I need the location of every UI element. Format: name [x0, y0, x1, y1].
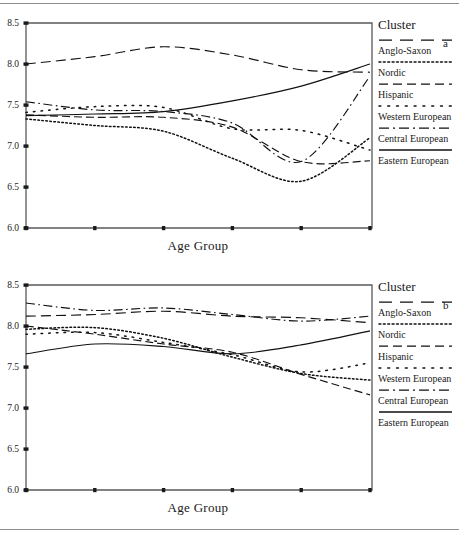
y-axis-tick — [24, 365, 29, 368]
x-axis-tick — [368, 226, 371, 230]
x-axis-tick — [231, 488, 234, 492]
x-axis-tick — [162, 226, 165, 230]
x-axis-tick-label: 35-44 — [153, 496, 175, 497]
x-axis-tick — [93, 226, 96, 230]
y-axis-tick-label: 8.0 — [7, 321, 19, 331]
legend-label: Nordic — [378, 328, 456, 340]
legend-entry-nordic[interactable]: Nordic — [378, 57, 456, 78]
y-axis-tick — [24, 406, 29, 409]
legend-entry-eastern-european[interactable]: Eastern European — [378, 145, 456, 166]
legend-line-sample-sparse-dot — [378, 101, 456, 110]
legend-line-sample-dash-dot — [378, 123, 456, 132]
legend-entry-western-european[interactable]: Western European — [378, 101, 456, 122]
x-axis-tick-label: 55-64 — [290, 234, 312, 235]
x-axis-tick — [93, 488, 96, 492]
legend-entry-western-european[interactable]: Western European — [378, 363, 456, 384]
x-axis-tick-label: 25-34 — [84, 496, 106, 497]
x-axis-tick-label: 55-64 — [290, 496, 312, 497]
page-rule-top — [0, 3, 459, 4]
x-axis-label-b: Age Group — [0, 500, 396, 516]
legend-line-sample-dash — [378, 341, 456, 350]
y-axis-tick-label: 8.5 — [7, 18, 19, 28]
legend-title-b: Cluster — [378, 280, 456, 294]
plot-frame — [26, 285, 372, 490]
series-line-anglo-saxon — [26, 47, 370, 72]
x-axis-tick-label: 35-44 — [153, 234, 175, 235]
chart-panel-b: 6.06.57.07.58.08.518-2425-3435-4445-5455… — [0, 272, 459, 527]
x-axis-tick-label: 45-54 — [221, 234, 243, 235]
legend-label: Eastern European — [378, 416, 456, 428]
y-axis-tick-label: 6.0 — [7, 485, 19, 495]
series-line-anglo-saxon — [26, 311, 370, 322]
y-axis-tick — [24, 103, 29, 106]
x-axis-tick-label: 25-34 — [84, 234, 106, 235]
y-axis-tick-label: 7.0 — [7, 403, 19, 413]
legend-title-a: Cluster — [378, 18, 456, 32]
legend-entry-nordic[interactable]: Nordic — [378, 319, 456, 340]
series-line-nordic — [26, 119, 370, 182]
y-axis-tick — [24, 283, 29, 286]
x-axis-tick — [24, 488, 27, 492]
y-axis-tick-label: 8.5 — [7, 280, 19, 290]
legend-line-sample-fine-dot — [378, 319, 456, 328]
y-axis-tick — [24, 447, 29, 450]
y-axis-tick — [24, 185, 29, 188]
series-line-nordic — [26, 327, 370, 380]
y-axis-tick-label: 6.5 — [7, 182, 19, 192]
series-line-hispanic — [26, 115, 370, 164]
x-axis-tick — [300, 226, 303, 230]
x-axis-tick — [24, 226, 27, 230]
x-axis-tick — [162, 488, 165, 492]
legend-entry-eastern-european[interactable]: Eastern European — [378, 407, 456, 428]
legend-entry-central-european[interactable]: Central European — [378, 123, 456, 144]
series-line-western-european — [26, 332, 370, 372]
legend-line-sample-solid — [378, 407, 456, 416]
legend-label: Central European — [378, 394, 456, 406]
x-axis-tick-label: 18-24 — [15, 234, 37, 235]
legend-line-sample-dash — [378, 79, 456, 88]
legend-label: Central European — [378, 132, 456, 144]
x-axis-tick-label: 45-54 — [221, 496, 243, 497]
legend-entry-hispanic[interactable]: Hispanic — [378, 341, 456, 362]
panel-letter-b: b — [443, 299, 449, 311]
x-axis-tick-label: 65+ — [363, 496, 378, 497]
x-axis-tick-label: 18-24 — [15, 496, 37, 497]
legend-label: Nordic — [378, 66, 456, 78]
legend-line-sample-fine-dot — [378, 57, 456, 66]
x-axis-tick-label: 65+ — [363, 234, 378, 235]
legend-label: Eastern European — [378, 154, 456, 166]
legend-label: Western European — [378, 110, 456, 122]
x-axis-tick — [368, 488, 371, 492]
series-line-central-european — [26, 76, 370, 162]
chart-panel-a: 6.06.57.07.58.08.518-2425-3435-4445-5455… — [0, 10, 459, 265]
legend-label: Hispanic — [378, 350, 456, 362]
legend-entry-hispanic[interactable]: Hispanic — [378, 79, 456, 100]
y-axis-tick-label: 7.5 — [7, 362, 19, 372]
series-line-eastern-european — [26, 331, 370, 354]
page-rule-bottom — [0, 529, 459, 530]
series-line-eastern-european — [26, 64, 370, 116]
y-axis-tick-label: 6.0 — [7, 223, 19, 233]
series-line-western-european — [26, 105, 370, 150]
series-line-hispanic — [26, 326, 370, 395]
legend-line-sample-dash-dot — [378, 385, 456, 394]
plot-frame — [26, 23, 372, 228]
legend-label: Western European — [378, 372, 456, 384]
y-axis-tick-label: 7.0 — [7, 141, 19, 151]
y-axis-tick-label: 8.0 — [7, 59, 19, 69]
y-axis-tick-label: 7.5 — [7, 100, 19, 110]
y-axis-tick — [24, 21, 29, 24]
panel-letter-a: a — [443, 37, 448, 49]
x-axis-label-a: Age Group — [0, 238, 396, 254]
legend-entry-central-european[interactable]: Central European — [378, 385, 456, 406]
legend-label: Hispanic — [378, 88, 456, 100]
x-axis-tick — [300, 488, 303, 492]
x-axis-tick — [231, 226, 234, 230]
legend-line-sample-solid — [378, 145, 456, 154]
y-axis-tick-label: 6.5 — [7, 444, 19, 454]
y-axis-tick — [24, 144, 29, 147]
legend-line-sample-sparse-dot — [378, 363, 456, 372]
